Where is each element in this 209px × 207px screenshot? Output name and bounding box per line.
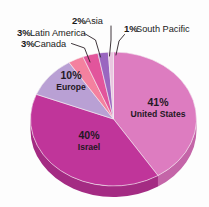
callout-asia-name: Asia	[85, 16, 104, 26]
inside-label-europe-name: Europe	[56, 82, 86, 92]
pie-chart-figure: 3% Latin America 3% Canada 2% Asia 1% So…	[0, 0, 209, 207]
callout-labels: 3% Latin America 3% Canada 2% Asia 1% So…	[17, 15, 190, 49]
callout-south-pacific-name: South Pacific	[136, 24, 190, 34]
inside-label-israel-pct: 40%	[78, 129, 100, 141]
inside-label-united-states-name: United States	[131, 109, 186, 119]
callout-canada-name: Canada	[34, 39, 67, 49]
inside-label-united-states-pct: 41%	[147, 96, 169, 108]
callout-latin-america-name: Latin America	[30, 28, 87, 38]
inside-label-israel-name: Israel	[78, 142, 100, 152]
pie-chart-canvas: 3% Latin America 3% Canada 2% Asia 1% So…	[0, 0, 209, 207]
leader-line-asia	[110, 26, 112, 56]
inside-label-europe-pct: 10%	[60, 69, 82, 81]
